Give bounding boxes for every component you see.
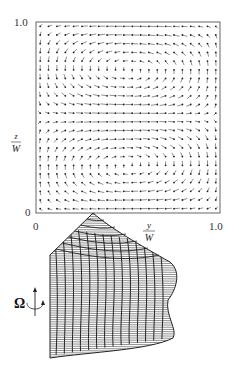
vector-origin: [173, 60, 175, 62]
mesh-curve: [70, 229, 73, 352]
vector-origin: [165, 182, 167, 184]
mesh-line: [48, 339, 185, 340]
vector-origin: [215, 69, 217, 71]
vector-origin: [148, 52, 150, 54]
mesh-line: [48, 324, 185, 325]
vector-origin: [182, 130, 184, 132]
vector-origin: [90, 43, 92, 45]
vector-origin: [98, 147, 100, 149]
vector-origin: [182, 52, 184, 54]
velocity-vector: [157, 199, 163, 200]
vector-origin: [48, 156, 50, 158]
vector-origin: [165, 190, 167, 192]
vector-origin: [64, 208, 66, 210]
vector-origin: [182, 78, 184, 80]
vector-origin: [156, 156, 158, 158]
vector-origin: [48, 173, 50, 175]
vector-origin: [123, 52, 125, 54]
vector-origin: [115, 52, 117, 54]
mesh-line: [48, 337, 185, 338]
vector-origin: [90, 138, 92, 140]
velocity-vector: [151, 130, 157, 131]
velocity-vector: [93, 104, 99, 105]
vector-origin: [115, 104, 117, 106]
mesh-line: [48, 247, 185, 248]
mesh-line: [48, 278, 185, 279]
vector-origin: [156, 104, 158, 106]
vector-origin: [81, 43, 83, 45]
vector-origin: [64, 34, 66, 36]
vector-origin: [115, 199, 117, 201]
vector-origin: [39, 208, 41, 210]
vector-origin: [148, 199, 150, 201]
vector-origin: [182, 199, 184, 201]
mesh-line: [48, 331, 185, 332]
vector-origin: [207, 182, 209, 184]
vector-origin: [64, 130, 66, 132]
vector-origin: [190, 147, 192, 149]
vector-origin: [81, 95, 83, 97]
vector-origin: [48, 95, 50, 97]
vector-origin: [190, 164, 192, 166]
vector-origin: [198, 147, 200, 149]
vector-origin: [73, 156, 75, 158]
vector-origin: [156, 86, 158, 88]
vector-origin: [156, 164, 158, 166]
vector-origin: [198, 164, 200, 166]
mesh-line: [48, 284, 185, 285]
vector-origin: [81, 34, 83, 36]
vector-origin: [123, 208, 125, 210]
vector-origin: [90, 199, 92, 201]
vector-origin: [115, 95, 117, 97]
vector-origin: [140, 69, 142, 71]
vector-origin: [165, 112, 167, 114]
vector-origin: [90, 156, 92, 158]
vector-origin: [140, 164, 142, 166]
vector-origin: [190, 138, 192, 140]
velocity-vector: [93, 131, 99, 132]
vector-origin: [90, 104, 92, 106]
vector-origin: [90, 112, 92, 114]
vector-origin: [56, 95, 58, 97]
vector-origin: [56, 86, 58, 88]
vector-origin: [190, 52, 192, 54]
vector-origin: [131, 147, 133, 149]
vector-origin: [123, 173, 125, 175]
vector-origin: [148, 60, 150, 62]
vector-origin: [73, 25, 75, 27]
vector-origin: [182, 104, 184, 106]
vector-origin: [123, 121, 125, 123]
vector-origin: [106, 112, 108, 114]
vector-origin: [182, 95, 184, 97]
vector-origin: [98, 60, 100, 62]
vector-origin: [207, 95, 209, 97]
mesh-line: [48, 311, 185, 312]
vector-origin: [165, 86, 167, 88]
vector-origin: [106, 78, 108, 80]
vector-origin: [56, 164, 58, 166]
vector-origin: [98, 130, 100, 132]
vector-origin: [148, 95, 150, 97]
mesh-line: [48, 262, 185, 263]
mesh-curve: [136, 240, 139, 343]
vector-origin: [56, 43, 58, 45]
vector-origin: [148, 69, 150, 71]
vector-origin: [48, 112, 50, 114]
vector-origin: [207, 164, 209, 166]
vector-origin: [190, 104, 192, 106]
vector-origin: [215, 34, 217, 36]
mesh-line: [48, 313, 185, 314]
vector-origin: [98, 138, 100, 140]
vector-origin: [148, 156, 150, 158]
vector-origin: [81, 69, 83, 71]
mesh-line: [48, 359, 185, 360]
y-tick-min: 0: [25, 206, 31, 218]
vector-origin: [48, 86, 50, 88]
vector-origin: [198, 95, 200, 97]
vector-origin: [115, 208, 117, 210]
vector-origin: [156, 138, 158, 140]
vector-origin: [148, 182, 150, 184]
vector-origin: [182, 43, 184, 45]
vector-origin: [165, 156, 167, 158]
vector-origin: [106, 121, 108, 123]
